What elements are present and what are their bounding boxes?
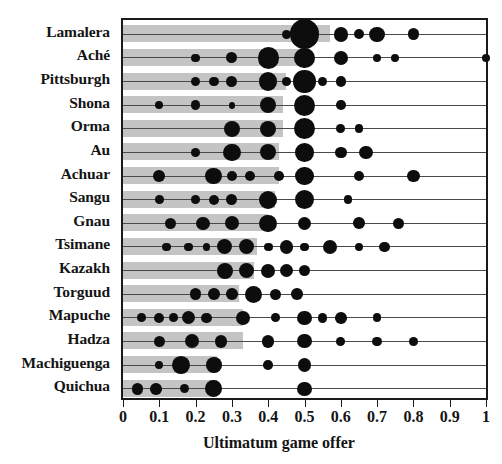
x-axis-tick-label: 0.5 [295,408,315,426]
offer-dot [334,27,349,42]
y-axis-label-shona: Shona [69,95,110,111]
offer-dot [335,312,347,324]
x-axis-tick [377,400,378,407]
offer-dot [393,218,404,229]
x-axis-tick-label: 0 [119,408,127,426]
offer-dot [155,195,164,204]
offer-dot [132,383,144,395]
offer-dot [205,380,222,397]
offer-dot [334,51,348,65]
offer-dot [391,54,399,62]
offer-dot [191,148,200,157]
offer-dot [258,47,279,68]
offer-dot [224,121,240,137]
offer-dot [263,360,273,370]
offer-dot [482,54,491,63]
offer-dot [291,288,303,300]
offer-dot [209,195,219,205]
offer-dot [153,170,165,182]
offer-dot [353,217,365,229]
plot-inner [123,20,486,398]
y-axis-label-orma: Orma [71,118,110,134]
x-axis-tick [486,400,487,407]
offer-dot [295,167,313,185]
y-axis-label-kazakh: Kazakh [59,260,110,276]
y-axis-label-gnau: Gnau [73,213,110,229]
x-axis-tick-label: 0.7 [367,408,387,426]
y-axis-label-pittsburgh: Pittsburgh [40,71,110,87]
offer-dot [373,54,382,63]
offer-dot [209,77,219,87]
y-axis-label-torguud: Torguud [54,284,110,300]
offer-dot [336,124,345,133]
x-axis-tick-label: 0.4 [258,408,278,426]
offer-dot [201,313,211,323]
offer-dot [298,358,312,372]
offer-dot [294,118,315,139]
offer-dot [259,215,276,232]
offer-dot [245,286,262,303]
offer-dot [217,263,233,279]
y-axis-label-sangu: Sangu [69,189,110,205]
offer-dot [293,70,315,92]
offer-dot [359,146,373,160]
offer-dot [261,264,275,278]
x-axis-tick [305,400,306,407]
offer-dot [336,76,346,86]
offer-dot [336,337,345,346]
offer-dot [297,334,311,348]
x-axis-tick-label: 0.8 [403,408,423,426]
offer-dot [409,337,418,346]
offer-dot [236,311,250,325]
x-axis-tick [341,400,342,407]
offer-dot [191,195,200,204]
y-axis-label-quichua: Quichua [54,378,110,394]
offer-dot [318,313,328,323]
offer-dot [172,356,190,374]
x-axis-tick-label: 1 [482,408,490,426]
x-axis-tick-label: 0.3 [222,408,242,426]
offer-dot [295,190,314,209]
offer-dot [372,337,382,347]
offer-dot [191,54,200,63]
x-axis-tick-label: 0.6 [331,408,351,426]
y-axis-label-hadza: Hadza [67,331,110,347]
offer-dot [344,195,353,204]
y-axis-label-machiguenga: Machiguenga [22,355,110,371]
x-axis-tick [232,400,233,407]
offer-dot [354,171,364,181]
x-axis-tick-label: 0.1 [149,408,169,426]
x-axis-tick [450,400,451,407]
offer-dot [282,77,291,86]
offer-dot [165,218,176,229]
offer-dot [294,95,315,116]
offer-dot [290,19,320,49]
offer-dot [196,217,210,231]
offer-dot [280,264,294,278]
offer-dot [203,243,211,251]
plot-area [121,18,488,400]
offer-dot [184,243,193,252]
offer-dot [379,242,389,252]
offer-dot [271,313,280,322]
offer-dot [335,147,347,159]
x-axis-tick [123,400,124,407]
offer-dot [239,263,254,278]
offer-dot [226,288,238,300]
ultimatum-game-figure: LamaleraAchéPittsburghShonaOrmaAuAchuarS… [0,0,502,464]
x-axis-tick-label: 0.2 [186,408,206,426]
offer-dot [355,124,364,133]
offer-dot [162,243,171,252]
offer-dot [280,240,294,254]
offer-dot [206,357,222,373]
offer-dot [264,243,273,252]
offer-dot [300,243,309,252]
offer-dot [260,121,276,137]
x-axis-title-text: Ultimatum game offer [147,434,355,451]
offer-dot [318,77,328,87]
offer-dot [270,289,281,300]
y-axis-labels: LamaleraAchéPittsburghShonaOrmaAuAchuarS… [0,0,117,400]
offer-dot [229,102,236,109]
row-baseline [123,294,486,295]
y-axis-label-mapuche: Mapuche [49,307,110,323]
